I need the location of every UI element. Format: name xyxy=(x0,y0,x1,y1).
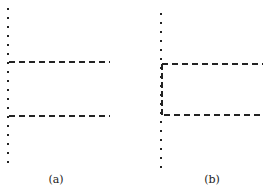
dotted-line-dot xyxy=(160,139,162,141)
dotted-line-dot xyxy=(7,116,9,118)
dotted-line-dot xyxy=(7,17,9,19)
dotted-line-dot xyxy=(7,71,9,73)
panel-a-label: (a) xyxy=(48,174,63,186)
dotted-line-dot xyxy=(160,40,162,42)
dotted-line-dot xyxy=(160,31,162,33)
dotted-line-dot xyxy=(160,130,162,132)
dotted-line-dot xyxy=(7,107,9,109)
dotted-line-dot xyxy=(7,161,9,163)
panel-b-label: (b) xyxy=(204,174,220,186)
dotted-line-dot xyxy=(7,80,9,82)
dotted-line-dot xyxy=(7,152,9,154)
dotted-line-dot xyxy=(160,22,162,24)
dotted-line-dot xyxy=(160,166,162,168)
diagram-canvas xyxy=(0,0,266,191)
dotted-line-dot xyxy=(160,13,162,15)
dotted-line-dot xyxy=(7,35,9,37)
dotted-line-dot xyxy=(160,58,162,60)
dotted-line-dot xyxy=(160,157,162,159)
dotted-line-dot xyxy=(7,89,9,91)
dotted-line-dot xyxy=(7,26,9,28)
dotted-line-dot xyxy=(7,98,9,100)
dotted-line-dot xyxy=(7,62,9,64)
panel-b xyxy=(160,13,263,168)
dotted-line-dot xyxy=(7,134,9,136)
dotted-line-dot xyxy=(160,121,162,123)
dotted-line-dot xyxy=(7,53,9,55)
dotted-line-dot xyxy=(7,143,9,145)
dotted-line-dot xyxy=(160,49,162,51)
dotted-line-dot xyxy=(7,125,9,127)
panel-a xyxy=(7,8,110,163)
dotted-line-dot xyxy=(7,44,9,46)
dotted-line-dot xyxy=(160,148,162,150)
dotted-line-dot xyxy=(7,8,9,10)
